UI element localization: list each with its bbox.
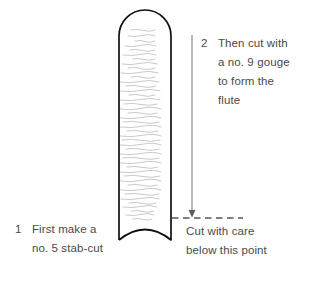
carving-diagram: 2 Then cut with a no. 9 gouge to form th… — [0, 0, 312, 292]
arrow-head — [189, 210, 196, 218]
cut-with-care-caption: Cut with care below this point — [186, 222, 267, 260]
step-2-number: 2 — [201, 34, 207, 53]
downward-direction-arrow — [189, 35, 196, 218]
step-1-number: 1 — [15, 220, 21, 239]
step-1-text: First make a no. 5 stab-cut — [32, 220, 103, 258]
step-2-text: Then cut with a no. 9 gouge to form the … — [218, 34, 290, 110]
